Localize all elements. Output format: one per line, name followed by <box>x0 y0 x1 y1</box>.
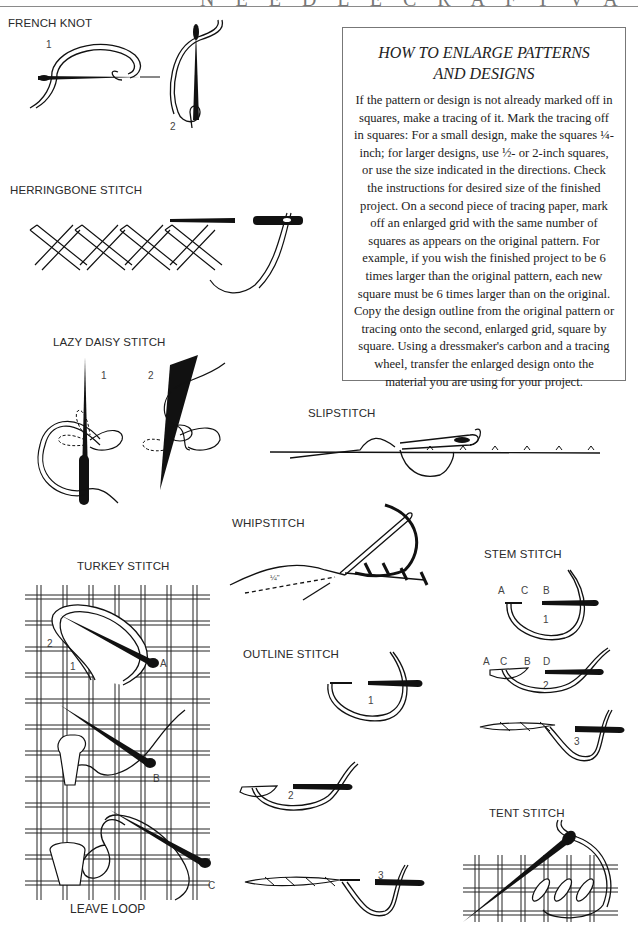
turkey-stitch-title: TURKEY STITCH <box>77 560 169 572</box>
stem-stitch-illustration <box>460 570 638 770</box>
infobox-title-line1: HOW TO ENLARGE PATTERNS <box>378 44 590 61</box>
slipstitch-title: SLIPSTITCH <box>308 407 375 419</box>
lazy-daisy-illustration <box>30 355 230 505</box>
herringbone-illustration <box>25 205 325 300</box>
infobox-title-line2: AND DESIGNS <box>434 65 535 82</box>
stem-stitch-title: STEM STITCH <box>484 548 562 560</box>
turkey-stitch-illustration <box>25 585 215 905</box>
whipstitch-illustration <box>225 505 465 615</box>
how-to-enlarge-box: HOW TO ENLARGE PATTERNS AND DESIGNS If t… <box>342 27 626 381</box>
infobox-body: If the pattern or design is not already … <box>353 92 615 391</box>
tent-stitch-illustration <box>463 810 638 926</box>
lazy-daisy-title: LAZY DAISY STITCH <box>53 336 165 348</box>
outline-stitch-illustration <box>230 650 460 925</box>
french-knot-illustration <box>0 0 240 150</box>
infobox-title: HOW TO ENLARGE PATTERNS AND DESIGNS <box>353 42 615 84</box>
herringbone-title: HERRINGBONE STITCH <box>10 184 142 196</box>
slipstitch-illustration <box>270 425 610 495</box>
